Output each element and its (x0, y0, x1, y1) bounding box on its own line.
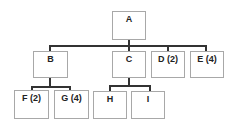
node-h: H (93, 91, 127, 119)
node-d-label: D (2) (158, 54, 178, 64)
node-b: B (33, 51, 68, 78)
node-i-label: I (147, 94, 150, 104)
node-b-label: B (47, 54, 54, 64)
node-f: F (2) (14, 90, 49, 119)
node-d: D (2) (151, 51, 185, 78)
connector-b-children-bar (31, 86, 71, 88)
node-e: E (4) (190, 51, 224, 78)
node-c-label: C (126, 54, 133, 64)
node-c: C (112, 51, 146, 78)
node-g: G (4) (54, 90, 89, 119)
node-i: I (131, 91, 165, 119)
node-a-label: A (126, 14, 133, 24)
node-e-label: E (4) (197, 54, 217, 64)
node-h-label: H (107, 94, 114, 104)
node-g-label: G (4) (61, 93, 82, 103)
node-f-label: F (2) (22, 93, 41, 103)
node-a: A (112, 11, 146, 40)
connector-c-children-bar (109, 85, 151, 87)
org-chart-diagram: A B C D (2) E (4) F (2) G (4) H I (0, 0, 237, 127)
